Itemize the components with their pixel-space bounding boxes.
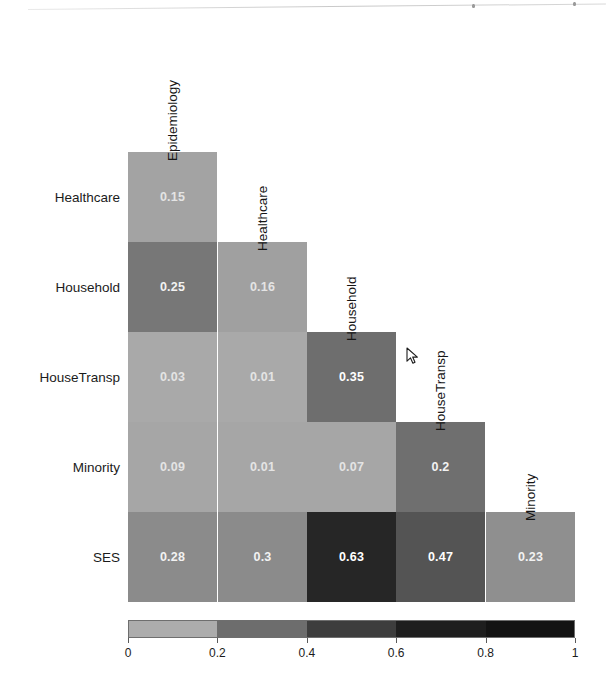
colorbar-tick — [396, 638, 397, 643]
correlation-heatmap-figure: 0.150.250.160.030.010.350.090.010.070.20… — [0, 0, 606, 690]
colorbar-tick-label: 1 — [572, 646, 579, 660]
heatmap-cell-value: 0.09 — [128, 460, 217, 474]
heatmap-cell-value: 0.03 — [128, 370, 217, 384]
colorbar-band — [128, 620, 217, 638]
colorbar-tick-label: 0.2 — [209, 646, 226, 660]
row-label-ses: SES — [10, 550, 120, 565]
heatmap-cell[interactable]: 0.35 — [307, 332, 396, 422]
heatmap-cell-value: 0.07 — [307, 460, 396, 474]
heatmap-cell-value: 0.47 — [396, 550, 485, 564]
heatmap-cell[interactable]: 0.15 — [128, 152, 217, 242]
colorbar-tick — [217, 638, 218, 643]
row-label-household: Household — [10, 280, 120, 295]
heatmap-cell-value: 0.35 — [307, 370, 396, 384]
colorbar-band — [307, 620, 396, 638]
colorbar-tick-label: 0.6 — [388, 646, 405, 660]
column-label-healthcare: Healthcare — [255, 186, 270, 251]
heatmap-cell-value: 0.16 — [218, 280, 307, 294]
column-label-household: Household — [344, 276, 359, 341]
colorbar-tick-label: 0.8 — [477, 646, 494, 660]
heatmap-cell[interactable]: 0.09 — [128, 422, 217, 512]
heatmap-cell-value: 0.01 — [218, 370, 307, 384]
column-label-minority: Minority — [523, 474, 538, 521]
heatmap-cell-value: 0.63 — [307, 550, 396, 564]
colorbar — [128, 620, 575, 638]
colorbar-tick — [575, 638, 576, 643]
heatmap-cell[interactable]: 0.25 — [128, 242, 217, 332]
heatmap-cell[interactable]: 0.2 — [396, 422, 485, 512]
colorbar-tick — [486, 638, 487, 643]
heatmap-cell[interactable]: 0.23 — [486, 512, 575, 602]
heatmap-cell[interactable]: 0.28 — [128, 512, 217, 602]
heatmap-cell[interactable]: 0.03 — [128, 332, 217, 422]
heatmap-cell-value: 0.2 — [396, 460, 485, 474]
heatmap-cell[interactable]: 0.3 — [218, 512, 307, 602]
row-label-healthcare: Healthcare — [10, 190, 120, 205]
heatmap-cell-value: 0.28 — [128, 550, 217, 564]
colorbar-band — [217, 620, 306, 638]
heatmap-cell-value: 0.15 — [128, 190, 217, 204]
row-label-minority: Minority — [10, 460, 120, 475]
heatmap-cell-value: 0.25 — [128, 280, 217, 294]
column-label-epidemiology: Epidemiology — [165, 80, 180, 161]
heatmap-cell[interactable]: 0.01 — [218, 422, 307, 512]
heatmap-cell[interactable]: 0.07 — [307, 422, 396, 512]
colorbar-band — [486, 620, 575, 638]
colorbar-tick-label: 0.4 — [298, 646, 315, 660]
heatmap-cell[interactable]: 0.01 — [218, 332, 307, 422]
heatmap-cell[interactable]: 0.63 — [307, 512, 396, 602]
heatmap-cell-value: 0.23 — [486, 550, 575, 564]
heatmap-cell[interactable]: 0.16 — [218, 242, 307, 332]
colorbar-tick-label: 0 — [125, 646, 132, 660]
row-label-housetransp: HouseTransp — [10, 370, 120, 385]
colorbar-band — [396, 620, 485, 638]
colorbar-tick — [128, 638, 129, 643]
column-label-housetransp: HouseTransp — [433, 350, 448, 431]
heatmap-cell-value: 0.01 — [218, 460, 307, 474]
colorbar-tick — [307, 638, 308, 643]
heatmap-cell-value: 0.3 — [218, 550, 307, 564]
heatmap-cell[interactable]: 0.47 — [396, 512, 485, 602]
